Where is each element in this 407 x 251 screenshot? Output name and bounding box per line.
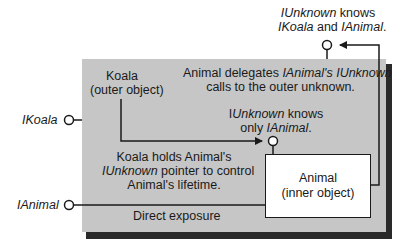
text-unknown: Unknown: [232, 107, 284, 121]
outer-unknown-annotation: IUnknown knows IKoala and IAnimal.: [278, 6, 378, 34]
text-period: .: [308, 121, 311, 135]
holds-pointer-annotation: Koala holds Animal's IUnknown pointer to…: [102, 150, 246, 192]
direct-exposure-label: Direct exposure: [133, 209, 221, 223]
text-knows: knows: [284, 107, 323, 121]
text-calls-outer: calls to the outer unknown.: [183, 80, 378, 94]
outer-object-label: Koala (outer object): [90, 69, 154, 97]
text-and: and: [313, 20, 341, 34]
text-holds-line1: Koala holds Animal's: [102, 150, 246, 164]
text-ianimal-iunknown: IAnimal's IUnknown: [282, 66, 391, 80]
text-iunknown: IUnknown: [102, 164, 158, 178]
delegation-annotation: Animal delegates IAnimal's IUnknown call…: [183, 66, 378, 94]
text-knows: knows: [336, 6, 375, 20]
text-period: .: [383, 20, 386, 34]
ikoala-label: IKoala: [22, 113, 57, 127]
text-only: only: [240, 121, 266, 135]
text-delegates: Animal delegates: [183, 66, 282, 80]
text-holds-line3: Animal's lifetime.: [102, 178, 246, 192]
text-holds-line2: pointer to control: [158, 164, 255, 178]
text-ikoala: IKoala: [278, 20, 313, 34]
inner-unknown-annotation: IUnknown knows only IAnimal.: [226, 107, 326, 135]
text-ianimal: IAnimal: [267, 121, 309, 135]
ianimal-label: IAnimal: [17, 198, 59, 212]
outer-object-subtitle: (outer object): [90, 83, 154, 97]
text-iunknown: IUnknown: [281, 6, 337, 20]
outer-object-name: Koala: [90, 69, 154, 83]
text-ianimal: IAnimal: [341, 20, 383, 34]
